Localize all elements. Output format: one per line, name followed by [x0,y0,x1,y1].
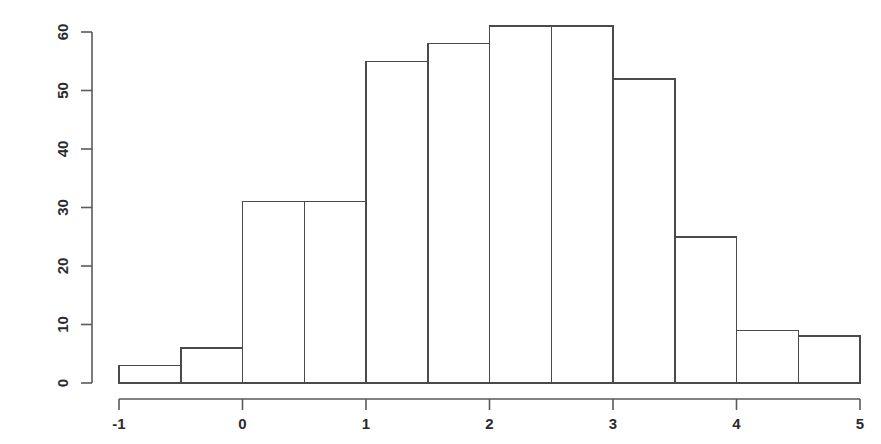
y-tick-label: 50 [54,82,71,99]
y-tick-label: 30 [54,199,71,216]
x-tick-label: 5 [856,415,864,432]
x-tick-label: 2 [485,415,493,432]
y-tick-label: 40 [54,141,71,158]
y-tick-label: 10 [54,316,71,333]
x-tick-label: 3 [609,415,617,432]
histogram-bar [613,79,675,383]
x-tick-label: 0 [238,415,246,432]
histogram-bar [243,202,305,383]
histogram-bar [551,26,613,383]
y-tick-label: 20 [54,258,71,275]
histogram-bar [675,237,737,383]
histogram-bar [181,348,243,383]
histogram-bar [428,44,490,383]
histogram-plot: 0102030405060 -1012345 [0,0,881,444]
x-tick-label: 4 [732,415,741,432]
histogram-bar [304,202,366,383]
x-tick-label: 1 [362,415,370,432]
histogram-bar [119,365,181,383]
y-tick-label: 60 [54,24,71,41]
histogram-bar [366,61,428,383]
y-tick-label: 0 [54,379,71,387]
chart-canvas: 0102030405060 -1012345 [0,0,881,444]
histogram-bar [737,330,799,383]
histogram-bar [490,26,552,383]
x-tick-label: -1 [112,415,125,432]
histogram-bar [798,336,860,383]
